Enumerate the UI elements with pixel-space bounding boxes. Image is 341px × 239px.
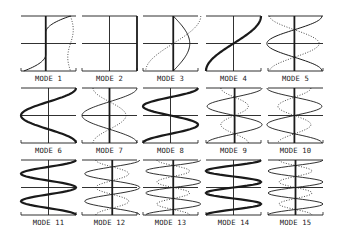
mode-panel: MODE 13 (143, 160, 201, 227)
mode-label: MODE 7 (96, 146, 123, 155)
mode-label: MODE 15 (280, 218, 312, 227)
mode-label: MODE 12 (94, 218, 126, 227)
mode-panel: MODE 15 (268, 160, 323, 227)
mode-panel: MODE 12 (82, 160, 140, 227)
mode-panel: MODE 2 (82, 16, 137, 83)
mode-label: MODE 9 (220, 146, 247, 155)
mode-panel: MODE 7 (82, 88, 137, 155)
mode-panel: MODE 3 (143, 16, 201, 83)
mode-label: MODE 5 (282, 74, 309, 83)
mode-panel: MODE 4 (206, 16, 261, 83)
mode-panel: MODE 1 (21, 16, 76, 83)
mode-panel: MODE 10 (267, 88, 323, 155)
mode-label: MODE 6 (35, 146, 62, 155)
mode-label: MODE 13 (155, 218, 187, 227)
mode-label: MODE 1 (35, 74, 62, 83)
mode-label: MODE 4 (220, 74, 247, 83)
mode-label: MODE 8 (157, 146, 184, 155)
mode-label: MODE 14 (218, 218, 250, 227)
mode-panel: MODE 11 (21, 160, 76, 227)
mode-label: MODE 3 (157, 74, 184, 83)
mode-label: MODE 10 (280, 146, 312, 155)
mode-panel: MODE 5 (267, 16, 323, 83)
mode-panel: MODE 9 (206, 88, 262, 155)
mode-panel: MODE 6 (21, 88, 76, 155)
mode-panel: MODE 14 (206, 160, 261, 227)
mode-shapes-figure: MODE 1MODE 2MODE 3MODE 4MODE 5MODE 6MODE… (0, 0, 341, 239)
mode-label: MODE 2 (96, 74, 123, 83)
mode-panel: MODE 8 (143, 88, 198, 155)
mode-label: MODE 11 (33, 218, 65, 227)
